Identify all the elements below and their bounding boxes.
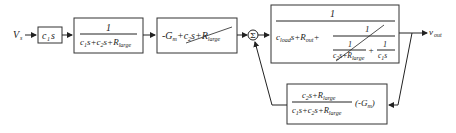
svg-text:(-Gm): (-Gm) bbox=[355, 98, 375, 109]
svg-text:+: + bbox=[368, 45, 374, 55]
block-c1s: c 1 s bbox=[38, 27, 62, 43]
svg-text:s: s bbox=[51, 30, 55, 41]
output-label: v out bbox=[429, 27, 442, 38]
input-label: V s bbox=[13, 29, 23, 41]
svg-text:1: 1 bbox=[47, 36, 50, 42]
block-gm-struck: -Gm+c2s+Rlarge bbox=[157, 18, 237, 53]
svg-text:out: out bbox=[434, 32, 442, 38]
svg-text:Σ: Σ bbox=[250, 31, 256, 40]
svg-text:1: 1 bbox=[348, 40, 352, 49]
svg-text:1: 1 bbox=[383, 40, 387, 49]
svg-text:1: 1 bbox=[106, 22, 111, 33]
svg-text:s: s bbox=[20, 35, 23, 41]
svg-text:v: v bbox=[429, 27, 433, 37]
block-feedback: c2s+Rlarge c1s+c2s+Rlarge (-Gm) bbox=[287, 84, 387, 124]
svg-text:1: 1 bbox=[365, 24, 370, 34]
svg-text:1: 1 bbox=[330, 8, 335, 19]
block-load-output: 1 cloads+Rout+ 1 1 c2s+Rlarge + 1 c1s bbox=[271, 5, 399, 63]
block-diagram: V s c 1 s 1 c1s+c2s+Rlarge -Gm+c2s+Rlarg… bbox=[0, 0, 456, 133]
block-input-divider: 1 c1s+c2s+Rlarge bbox=[74, 18, 143, 53]
summing-junction: Σ bbox=[248, 30, 258, 40]
